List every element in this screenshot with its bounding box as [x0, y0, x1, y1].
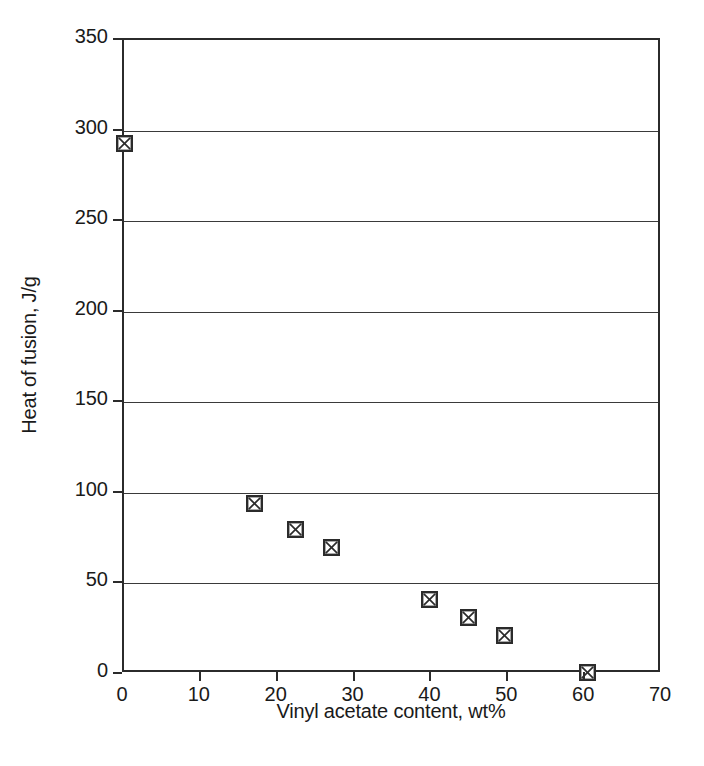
- x-tick-mark-40: [429, 672, 431, 681]
- x-tick-mark-30: [353, 672, 355, 681]
- x-tick-mark-20: [276, 672, 278, 681]
- x-axis-title: Vinyl acetate content, wt%: [122, 700, 660, 723]
- x-tick-mark-60: [583, 672, 585, 681]
- x-tick-mark-10: [199, 672, 201, 681]
- x-tick-mark-50: [506, 672, 508, 681]
- x-axis-ticks: 010203040506070: [0, 0, 704, 766]
- scatter-chart-figure: Heat of fusion, J/g 05010015020025030035…: [0, 0, 704, 766]
